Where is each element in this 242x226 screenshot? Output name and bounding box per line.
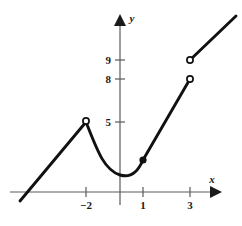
x-axis-arrow-icon — [210, 186, 222, 198]
right-linear-branch — [190, 16, 236, 60]
function-graph-figure: −2 1 3 9 8 5 x y — [0, 0, 242, 226]
tick-labels-group: −2 1 3 9 8 5 — [80, 54, 193, 211]
endpoint-markers-group — [83, 57, 193, 163]
middle-parabolic-branch — [86, 122, 143, 176]
x-tick-label-neg2: −2 — [80, 199, 92, 211]
y-tick-label-9: 9 — [106, 54, 112, 66]
y-axis-label: y — [128, 12, 135, 24]
x-axis-label: x — [208, 173, 215, 185]
open-point-neg2-5 — [83, 118, 89, 124]
middle-linear-branch — [143, 79, 190, 160]
open-point-3-9 — [187, 57, 193, 63]
function-curve-group — [20, 16, 236, 201]
y-axis-arrow-icon — [114, 14, 126, 26]
x-tick-label-1: 1 — [140, 199, 146, 211]
open-point-3-8 — [187, 76, 193, 82]
graph-canvas: −2 1 3 9 8 5 x y — [0, 0, 242, 226]
closed-point-1-2 — [140, 157, 146, 163]
left-linear-branch — [20, 122, 86, 201]
y-tick-label-5: 5 — [106, 116, 112, 128]
tick-marks-group — [86, 60, 190, 197]
y-tick-label-8: 8 — [106, 73, 112, 85]
x-tick-label-3: 3 — [187, 199, 193, 211]
